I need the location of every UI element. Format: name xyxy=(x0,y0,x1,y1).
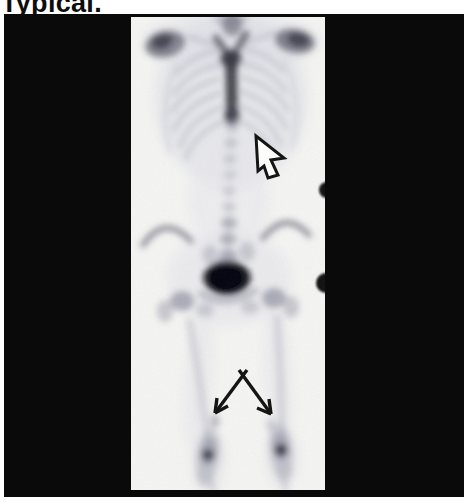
left-black-panel xyxy=(4,14,131,497)
film-grain xyxy=(131,17,325,490)
bone-scan-figure xyxy=(4,14,464,497)
right-black-panel xyxy=(325,14,464,497)
bone-scan-film xyxy=(131,17,325,490)
page: Typical. xyxy=(0,0,473,503)
bone-scan-image xyxy=(131,17,325,490)
